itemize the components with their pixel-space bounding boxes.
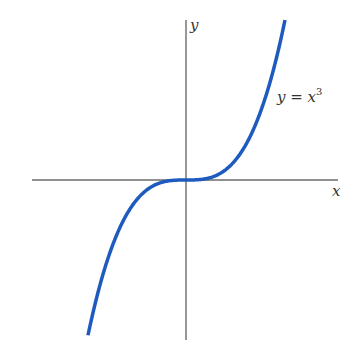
y-axis-label: y [189, 16, 199, 34]
cubic-graph: y x y = x3 [0, 0, 362, 364]
curve-label: y = x3 [276, 86, 322, 106]
x-axis-label: x [332, 182, 341, 200]
